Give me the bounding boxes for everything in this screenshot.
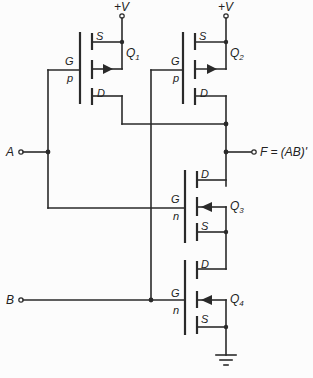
type-label-q3: n bbox=[173, 210, 179, 222]
output-label: F = (AB)' bbox=[260, 145, 308, 159]
arrow-icon bbox=[201, 202, 212, 212]
type-label-q4: n bbox=[173, 304, 179, 316]
source-label-q4: S bbox=[201, 313, 209, 325]
type-label-q2: p bbox=[172, 72, 179, 84]
drain-label-q4: D bbox=[201, 258, 209, 270]
transistor-label-q2: Q2 bbox=[230, 46, 244, 62]
supply-label-q2: +V bbox=[218, 0, 234, 14]
output-terminal bbox=[252, 150, 256, 154]
transistor-label-q3: Q3 bbox=[230, 199, 244, 215]
transistor-q4 bbox=[185, 260, 228, 355]
transistor-q1 bbox=[48, 14, 124, 124]
drain-label-q3: D bbox=[201, 168, 209, 180]
source-label-q1: S bbox=[96, 30, 104, 42]
transistor-label-q1: Q1 bbox=[126, 46, 140, 62]
gate-label-q1: G bbox=[65, 55, 74, 67]
source-label-q2: S bbox=[199, 30, 207, 42]
wiring bbox=[19, 70, 256, 302]
supply-label-q1: +V bbox=[114, 0, 130, 14]
gate-label-q4: G bbox=[171, 287, 180, 299]
input-label-a: A bbox=[5, 145, 14, 159]
schematic-svg: +V +V S D G p Q1 S D G p Q2 F = (AB)' A … bbox=[0, 0, 313, 378]
labels: +V +V S D G p Q1 S D G p Q2 F = (AB)' A … bbox=[5, 0, 308, 325]
input-label-b: B bbox=[6, 293, 14, 307]
transistor-label-q4: Q4 bbox=[230, 292, 244, 308]
drain-label-q2: D bbox=[200, 87, 208, 99]
arrow-icon bbox=[207, 64, 217, 74]
ground-icon bbox=[216, 355, 236, 365]
cmos-nand-schematic: +V +V S D G p Q1 S D G p Q2 F = (AB)' A … bbox=[0, 0, 313, 378]
gate-label-q3: G bbox=[171, 193, 180, 205]
gate-label-q2: G bbox=[171, 55, 180, 67]
arrow-icon bbox=[103, 64, 113, 74]
type-label-q1: p bbox=[66, 72, 73, 84]
source-label-q3: S bbox=[201, 220, 209, 232]
transistor-q2 bbox=[151, 14, 228, 124]
drain-label-q1: D bbox=[97, 87, 105, 99]
arrow-icon bbox=[201, 295, 212, 305]
